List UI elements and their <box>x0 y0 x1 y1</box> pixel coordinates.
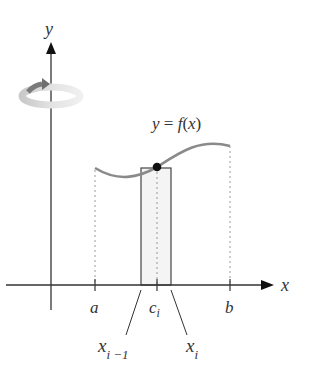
tick-label-c: ci <box>149 298 160 320</box>
x-axis-label: x <box>280 275 289 295</box>
revolution-diagram: y x y = f(x) a ci b xi −1 xi <box>0 0 325 370</box>
sample-point <box>153 163 162 172</box>
callout-label-x-i: xi <box>185 335 198 362</box>
callout-label-x-i-minus-1: xi −1 <box>97 335 129 362</box>
tick-label-a: a <box>90 298 99 317</box>
x-axis-arrow-icon <box>261 280 274 290</box>
y-axis-arrow-icon <box>46 42 56 54</box>
riemann-rectangle <box>141 168 171 285</box>
curve-label: y = f(x) <box>150 114 201 133</box>
y-axis-label: y <box>43 19 53 39</box>
tick-label-b: b <box>225 298 234 317</box>
